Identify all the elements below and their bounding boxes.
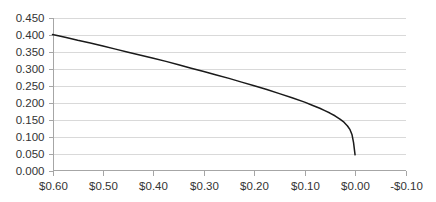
- chart-background: [0, 0, 436, 202]
- x-axis-tick-label: $0.30: [190, 180, 219, 192]
- y-axis-tick-label: 0.200: [16, 97, 45, 109]
- y-axis-tick-label: 0.000: [16, 165, 45, 177]
- y-axis-tick-label: 0.100: [16, 131, 45, 143]
- y-axis-tick-label: 0.400: [16, 29, 45, 41]
- x-axis-tick-label: $0.60: [39, 180, 68, 192]
- y-axis-tick-label: 0.150: [16, 114, 45, 126]
- line-chart: 0.4500.4000.3500.3000.2500.2000.1500.100…: [0, 0, 436, 202]
- x-axis-tick-label: $0.40: [139, 180, 168, 192]
- y-axis-tick-label: 0.250: [16, 80, 45, 92]
- y-axis-tick-label: 0.300: [16, 63, 45, 75]
- x-axis-tick-label: -$0.10: [390, 180, 423, 192]
- y-axis-tick-label: 0.450: [16, 12, 45, 24]
- x-axis-tick-label: $0.50: [89, 180, 118, 192]
- x-axis-tick-label: $0.10: [291, 180, 320, 192]
- y-axis-tick-label: 0.350: [16, 46, 45, 58]
- y-axis-tick-label: 0.050: [16, 148, 45, 160]
- x-axis-tick-label: $0.20: [240, 180, 269, 192]
- chart-container: 0.4500.4000.3500.3000.2500.2000.1500.100…: [0, 0, 436, 202]
- x-axis-tick-label: $0.00: [341, 180, 370, 192]
